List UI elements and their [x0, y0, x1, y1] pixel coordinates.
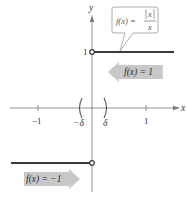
upper-open-circle-icon [90, 50, 95, 55]
lower-label-arrow: f(x) = −1 [24, 169, 80, 189]
neg-delta-label: −δ [73, 118, 84, 128]
callout-denominator: x [147, 22, 152, 32]
x-tick-label-neg1: −1 [32, 116, 42, 126]
y-axis-arrow-icon [90, 15, 94, 22]
x-axis-arrow-icon [173, 106, 180, 110]
y-tick-label-1: 1 [83, 47, 88, 57]
upper-label-text: f(x) = 1 [124, 67, 153, 78]
lower-label-text: f(x) = −1 [26, 174, 62, 185]
upper-label-arrow: f(x) = 1 [108, 62, 163, 82]
callout-numerator: x [147, 9, 152, 19]
function-callout: f(x) = x x [112, 7, 158, 51]
callout-lhs: f(x) = [116, 16, 136, 26]
y-axis-label: y [88, 3, 94, 13]
x-tick-label-1: 1 [144, 116, 149, 126]
graph-figure: x y −1 1 −δ δ 1 f(x) = x x f(x) = 1 f(x)… [0, 0, 187, 201]
x-axis-label: x [180, 103, 186, 113]
delta-label: δ [103, 118, 108, 128]
lower-open-circle-icon [90, 161, 95, 166]
